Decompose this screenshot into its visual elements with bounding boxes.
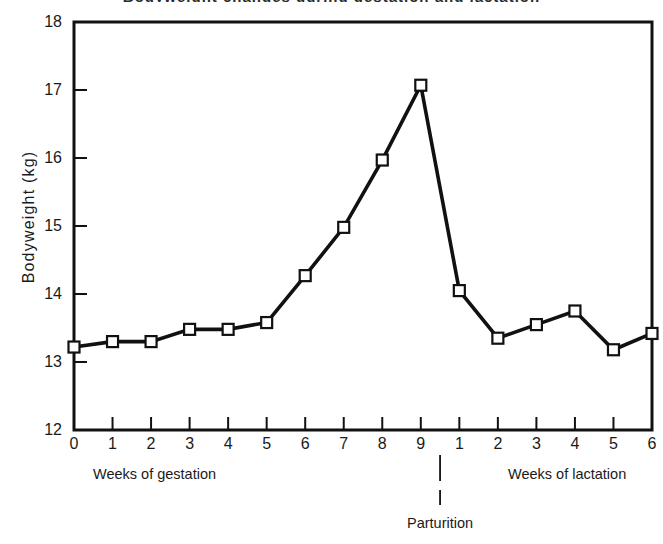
data-point-marker bbox=[107, 336, 118, 347]
x-tick-label: 3 bbox=[524, 436, 548, 452]
x-tick-label: 3 bbox=[178, 436, 202, 452]
x-tick-label: 5 bbox=[601, 436, 625, 452]
y-tick-label: 12 bbox=[32, 422, 62, 438]
data-point-marker bbox=[377, 155, 388, 166]
x-tick-label: 4 bbox=[216, 436, 240, 452]
x-tick-label: 2 bbox=[486, 436, 510, 452]
data-point-marker bbox=[223, 324, 234, 335]
data-point-marker bbox=[608, 344, 619, 355]
plot-area bbox=[0, 0, 663, 544]
data-point-marker bbox=[69, 342, 80, 353]
x-tick-label: 5 bbox=[255, 436, 279, 452]
y-tick-label: 17 bbox=[32, 82, 62, 98]
phase-caption-lactation: Weeks of lactation bbox=[508, 466, 626, 482]
y-tick-label: 13 bbox=[32, 354, 62, 370]
x-tick-label: 1 bbox=[447, 436, 471, 452]
y-tick-label: 15 bbox=[32, 218, 62, 234]
x-tick-label: 9 bbox=[409, 436, 433, 452]
data-markers bbox=[69, 80, 658, 356]
data-point-marker bbox=[184, 324, 195, 335]
phase-caption-gestation: Weeks of gestation bbox=[93, 466, 216, 482]
y-tick-label: 14 bbox=[32, 286, 62, 302]
data-point-marker bbox=[569, 306, 580, 317]
data-point-marker bbox=[454, 285, 465, 296]
data-point-marker bbox=[146, 336, 157, 347]
x-tick-label: 1 bbox=[101, 436, 125, 452]
x-tick-label: 0 bbox=[62, 436, 86, 452]
x-tick-label: 2 bbox=[139, 436, 163, 452]
data-point-marker bbox=[261, 317, 272, 328]
data-point-marker bbox=[338, 222, 349, 233]
data-point-marker bbox=[415, 80, 426, 91]
x-tick-label: 7 bbox=[332, 436, 356, 452]
y-tick-label: 18 bbox=[32, 14, 62, 30]
plot-frame bbox=[74, 22, 652, 430]
plot-frame-box bbox=[74, 22, 652, 430]
y-axis-ticks bbox=[74, 90, 87, 362]
x-tick-label: 8 bbox=[370, 436, 394, 452]
parturition-label: Parturition bbox=[407, 515, 473, 531]
bodyweight-line bbox=[74, 85, 652, 350]
figure-title: Bodyweight changes during gestation and … bbox=[0, 0, 663, 2]
data-point-marker bbox=[300, 270, 311, 281]
y-tick-label: 16 bbox=[32, 150, 62, 166]
x-tick-label: 6 bbox=[293, 436, 317, 452]
data-series-bodyweight bbox=[74, 85, 652, 350]
x-tick-label: 4 bbox=[563, 436, 587, 452]
data-point-marker bbox=[647, 328, 658, 339]
data-point-marker bbox=[492, 333, 503, 344]
data-point-marker bbox=[531, 319, 542, 330]
bodyweight-chart-figure: Bodyweight changes during gestation and … bbox=[0, 0, 663, 544]
x-tick-label: 6 bbox=[640, 436, 663, 452]
x-axis-ticks bbox=[113, 417, 614, 430]
